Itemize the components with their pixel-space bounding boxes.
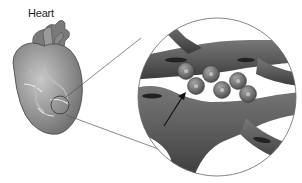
diagram-canvas (0, 0, 302, 183)
magnified-view (90, 10, 302, 183)
